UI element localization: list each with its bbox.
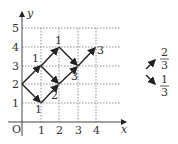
svg-text:3: 3 [161, 59, 168, 72]
lattice-path-diagram: x y O 1 2 3 4 1 2 3 4 5 1 1 1 2 3 3 2 3 … [0, 0, 178, 144]
down-right-arrow-icon [146, 75, 155, 84]
x-tick: 1 [38, 124, 45, 137]
up-right-arrow-icon [146, 60, 155, 69]
svg-text:1: 1 [161, 73, 168, 86]
y-tick: 1 [12, 97, 19, 110]
svg-text:3: 3 [161, 86, 168, 99]
x-axis-label: x [121, 123, 128, 136]
y-tick: 3 [12, 60, 19, 73]
origin-label: O [12, 123, 21, 136]
y-axis-label: y [26, 7, 34, 20]
count-label: 3 [97, 44, 104, 57]
x-tick: 3 [75, 124, 82, 137]
count-label: 1 [32, 52, 39, 65]
count-label: 3 [71, 70, 78, 83]
y-tick: 2 [12, 78, 19, 91]
x-tick: 2 [56, 124, 63, 137]
axes [8, 12, 126, 136]
svg-text:2: 2 [161, 46, 168, 59]
count-label: 1 [55, 34, 62, 47]
probability-legend: 2 3 1 3 [146, 46, 169, 99]
x-tick: 4 [93, 124, 100, 137]
count-label: 2 [51, 89, 58, 102]
y-tick: 5 [12, 22, 19, 35]
y-tick: 4 [12, 41, 19, 54]
count-label: 1 [35, 103, 42, 116]
